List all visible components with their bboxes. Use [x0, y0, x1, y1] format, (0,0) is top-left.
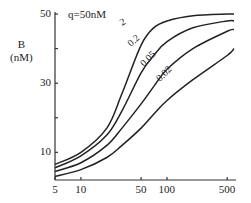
x-tick-label: 500 [219, 184, 236, 195]
y-tick-label: 50 [40, 8, 51, 19]
x-tick-label: 50 [135, 184, 146, 195]
curve-0-2 [55, 20, 234, 167]
curve-label: 0.2 [125, 32, 142, 49]
y-tick-label: 30 [40, 77, 51, 88]
annotation-q: q=50nM [68, 9, 106, 20]
data-curves [55, 14, 234, 177]
y-axis-label: B (nM) [10, 39, 33, 63]
y-axis-label-line1: B [10, 39, 33, 50]
x-tick-label: 5 [52, 184, 58, 195]
y-tick-label: 10 [40, 146, 51, 157]
curve-2 [55, 14, 234, 165]
x-tick-label: 100 [159, 184, 176, 195]
x-tick-label: 10 [75, 184, 86, 195]
chart-plot: 20.20.050.02 [0, 0, 251, 203]
curve-label: 2 [118, 16, 128, 28]
y-axis-label-line2: (nM) [10, 52, 33, 63]
curve-0-05 [55, 29, 234, 171]
curve-labels: 20.20.050.02 [118, 16, 174, 84]
curve-label: 0.05 [138, 48, 158, 68]
